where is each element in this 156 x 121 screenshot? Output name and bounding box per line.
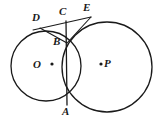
point-label-c: C — [59, 6, 66, 17]
segment-de-tangent-line — [33, 17, 91, 30]
segment-ca — [66, 21, 67, 105]
point-label-a: A — [62, 106, 69, 117]
geometry-figure: D C E B A O P — [0, 0, 156, 121]
center-label-p: P — [104, 58, 111, 69]
point-label-d: D — [32, 12, 40, 23]
geometry-canvas — [0, 0, 156, 121]
center-label-o: O — [33, 59, 41, 70]
point-label-e: E — [83, 2, 90, 13]
center-dot-p — [99, 62, 102, 65]
point-label-b: B — [53, 36, 60, 47]
center-dot-o — [50, 62, 53, 65]
segment-be — [67, 17, 91, 43]
